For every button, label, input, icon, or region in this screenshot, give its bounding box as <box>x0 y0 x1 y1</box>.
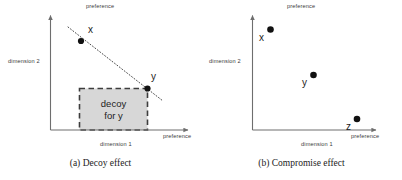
x-axis-bottom-label-a: dimension 1 <box>100 142 132 148</box>
x-axis-end-label-a: preference <box>163 134 191 140</box>
decoy-box-line-2: for y <box>79 110 148 122</box>
point-label-y-a: y <box>151 72 156 82</box>
data-point-x <box>267 26 274 33</box>
compromise-plot-svg <box>201 0 402 150</box>
point-label-x-a: x <box>88 25 93 35</box>
plot-area-decoy: preference dimension 2 preference dimens… <box>0 0 201 150</box>
data-point-x <box>78 38 84 44</box>
plot-area-compromise: preference dimension 2 preference dimens… <box>201 0 402 150</box>
caption-panel-b: (b) Compromise effect <box>201 158 402 168</box>
data-point-y <box>144 85 150 91</box>
caption-panel-a: (a) Decoy effect <box>0 158 201 168</box>
data-point-z <box>354 116 361 123</box>
point-label-y-b: y <box>302 78 307 88</box>
y-axis-side-label-b: dimension 2 <box>209 59 241 65</box>
y-axis-top-label-a: preference <box>86 4 114 10</box>
data-point-y <box>310 72 317 79</box>
point-label-z-b: z <box>346 122 351 132</box>
decoy-box-line-1: decoy <box>79 98 148 110</box>
decoy-plot-svg <box>0 0 201 150</box>
x-axis-bottom-label-b: dimension 1 <box>301 142 333 148</box>
figure-decoy-and-compromise-effects: preference dimension 2 preference dimens… <box>0 0 402 180</box>
panel-decoy-effect: preference dimension 2 preference dimens… <box>0 0 201 180</box>
y-axis-top-label-b: preference <box>287 4 315 10</box>
point-label-x-b: x <box>259 33 264 43</box>
y-axis-side-label-a: dimension 2 <box>8 59 40 65</box>
decoy-box-caption: decoy for y <box>79 98 148 121</box>
panel-compromise-effect: preference dimension 2 preference dimens… <box>201 0 402 180</box>
x-axis-end-label-b: preference <box>351 134 379 140</box>
